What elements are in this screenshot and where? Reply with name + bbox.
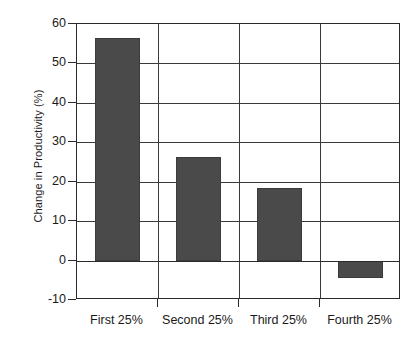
x-axis-tick-label: Second 25%	[162, 313, 233, 327]
x-axis-tick-mark	[157, 299, 158, 307]
y-axis-tick-mark	[68, 23, 76, 24]
x-axis-tick-label: First 25%	[90, 313, 143, 327]
y-axis-tick-label: 20	[32, 174, 66, 188]
x-axis-tick-mark	[319, 299, 320, 307]
y-axis-tick-mark	[68, 181, 76, 182]
x-axis-tick-labels: First 25%Second 25%Third 25%Fourth 25%	[76, 313, 400, 333]
y-axis-tick-label: 10	[32, 213, 66, 227]
y-axis-tick-labels: 6050403020100-10	[28, 0, 66, 349]
x-axis-tick-label: Fourth 25%	[327, 313, 392, 327]
bar	[95, 38, 139, 261]
y-axis-tick-label: -10	[32, 292, 66, 306]
bar	[257, 188, 301, 260]
y-axis-tick-mark	[68, 62, 76, 63]
y-axis-tick-label: 40	[32, 95, 66, 109]
y-axis-tick-label: 0	[32, 253, 66, 267]
y-axis-tick-mark	[68, 102, 76, 103]
category-divider	[320, 24, 321, 298]
y-axis-tick-mark	[68, 260, 76, 261]
y-axis-tick-label: 50	[32, 55, 66, 69]
bar	[176, 157, 220, 261]
x-axis-tick-label: Third 25%	[250, 313, 307, 327]
y-axis-tick-mark	[68, 220, 76, 221]
y-axis-tick-label: 60	[32, 16, 66, 30]
plot-area	[76, 23, 400, 299]
x-axis-tick-mark	[238, 299, 239, 307]
y-axis-tick-mark	[68, 141, 76, 142]
bar	[338, 261, 382, 279]
zero-baseline	[77, 261, 399, 262]
y-axis-tick-label: 30	[32, 134, 66, 148]
bar-chart: Change in Productivity (%) 6050403020100…	[0, 0, 417, 349]
y-axis-tick-mark	[68, 299, 76, 300]
category-divider	[158, 24, 159, 298]
category-divider	[239, 24, 240, 298]
